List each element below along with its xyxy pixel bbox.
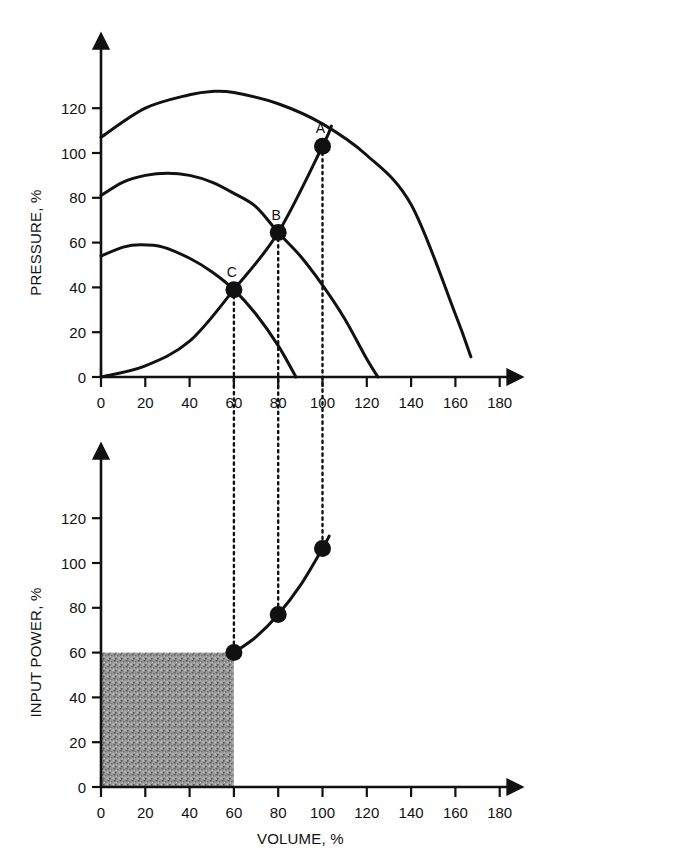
x-tick-label: 100 bbox=[310, 804, 335, 821]
pump-curve-high-speed bbox=[101, 91, 471, 357]
operating-point-label-a: A bbox=[316, 120, 326, 136]
x-tick-label: 60 bbox=[226, 804, 243, 821]
x-tick-label: 180 bbox=[487, 804, 512, 821]
x-tick-label: 140 bbox=[399, 804, 424, 821]
pump-curve-low-speed bbox=[101, 245, 296, 377]
y-tick-label: 40 bbox=[69, 279, 86, 296]
y-tick-label: 80 bbox=[69, 599, 86, 616]
x-tick-label: 80 bbox=[270, 804, 287, 821]
x-axis-title: VOLUME, % bbox=[257, 830, 344, 847]
y-tick-label: 100 bbox=[61, 555, 86, 572]
x-tick-label: 60 bbox=[226, 394, 243, 411]
y-tick-label: 20 bbox=[69, 734, 86, 751]
x-tick-label: 120 bbox=[354, 394, 379, 411]
y-tick-label: 120 bbox=[61, 100, 86, 117]
x-tick-label: 40 bbox=[181, 804, 198, 821]
y-tick-label: 60 bbox=[69, 234, 86, 251]
x-tick-label: 20 bbox=[137, 804, 154, 821]
operating-point-label-c: C bbox=[227, 264, 237, 280]
y-tick-label: 80 bbox=[69, 189, 86, 206]
pump-curve-mid-speed bbox=[101, 173, 378, 377]
x-tick-label: 140 bbox=[399, 394, 424, 411]
x-tick-label: 0 bbox=[97, 394, 105, 411]
y-tick-label: 40 bbox=[69, 689, 86, 706]
x-tick-label: 0 bbox=[97, 804, 105, 821]
y-axis-title: PRESSURE, % bbox=[27, 189, 44, 295]
x-tick-label: 40 bbox=[181, 394, 198, 411]
operating-point-label-b: B bbox=[272, 207, 281, 223]
x-tick-label: 160 bbox=[443, 394, 468, 411]
y-axis-title: INPUT POWER, % bbox=[27, 588, 44, 718]
x-tick-label: 20 bbox=[137, 394, 154, 411]
y-tick-label: 60 bbox=[69, 644, 86, 661]
y-tick-label: 120 bbox=[61, 510, 86, 527]
pressure-chart: 020406080100120020406080100120140160180P… bbox=[27, 46, 512, 411]
y-tick-label: 100 bbox=[61, 145, 86, 162]
energy-saving-area bbox=[101, 653, 234, 787]
x-tick-label: 180 bbox=[487, 394, 512, 411]
y-tick-label: 20 bbox=[69, 324, 86, 341]
input-power-chart: 020406080100120020406080100120140160180I… bbox=[27, 456, 512, 847]
pump-performance-figure: 020406080100120020406080100120140160180P… bbox=[0, 0, 680, 867]
figure-canvas: 020406080100120020406080100120140160180P… bbox=[0, 0, 680, 867]
x-tick-label: 120 bbox=[354, 804, 379, 821]
axes: 020406080100120020406080100120140160180I… bbox=[27, 456, 512, 847]
y-tick-label: 0 bbox=[78, 779, 86, 796]
x-tick-label: 160 bbox=[443, 804, 468, 821]
input-power-curve bbox=[234, 536, 329, 652]
y-tick-label: 0 bbox=[78, 369, 86, 386]
